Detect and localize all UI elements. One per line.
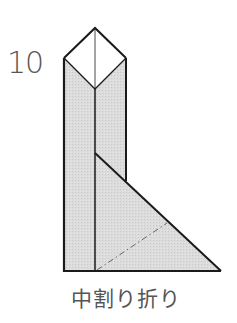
origami-diagram bbox=[0, 0, 237, 323]
caption: 中割り折り bbox=[0, 289, 237, 310]
left-panel bbox=[64, 58, 95, 271]
